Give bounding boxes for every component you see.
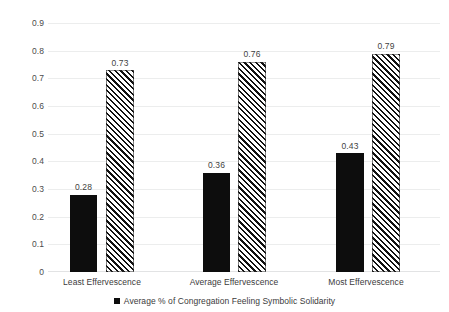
bar-series2-average[interactable] — [238, 62, 266, 272]
bar-chart: 0.9 0.8 0.7 0.6 0.5 0.4 0.3 0.2 0.1 0 0.… — [0, 0, 449, 312]
y-axis-tick: 0.6 — [4, 102, 44, 111]
x-axis-tick-most: Most Effervescence — [306, 277, 426, 287]
x-axis-tick-average: Average Effervescence — [174, 277, 294, 287]
x-axis: Least Effervescence Average Effervescenc… — [48, 277, 440, 293]
legend-item-label: Average % of Congregation Feeling Symbol… — [124, 297, 335, 306]
bar-label-series1-average: 0.36 — [195, 161, 238, 170]
bar-series2-least[interactable] — [106, 70, 134, 272]
bar-label-series1-most: 0.43 — [328, 142, 372, 151]
x-axis-tick-least: Least Effervescence — [42, 277, 162, 287]
gridline — [48, 23, 440, 24]
legend: Average % of Congregation Feeling Symbol… — [0, 297, 449, 306]
bar-series1-least[interactable] — [70, 195, 97, 272]
bar-series1-most[interactable] — [336, 153, 364, 272]
bar-label-series1-least: 0.28 — [62, 183, 105, 192]
bar-label-series2-least: 0.73 — [98, 59, 142, 68]
y-axis-tick: 0.7 — [4, 74, 44, 83]
y-axis-tick: 0.9 — [4, 19, 44, 28]
y-axis-tick: 0.5 — [4, 129, 44, 138]
bar-series1-average[interactable] — [203, 173, 230, 273]
bar-series2-most[interactable] — [372, 54, 400, 272]
bar-label-series2-most: 0.79 — [364, 42, 408, 51]
legend-swatch-icon — [114, 298, 120, 304]
bar-label-series2-average: 0.76 — [230, 50, 274, 59]
y-axis: 0.9 0.8 0.7 0.6 0.5 0.4 0.3 0.2 0.1 0 — [0, 23, 44, 272]
clipped-title-remnant — [0, 0, 449, 4]
y-axis-tick: 0.2 — [4, 212, 44, 221]
y-axis-tick: 0 — [4, 268, 44, 277]
y-axis-tick: 0.3 — [4, 185, 44, 194]
y-axis-tick: 0.8 — [4, 46, 44, 55]
y-axis-tick: 0.1 — [4, 240, 44, 249]
plot-area: 0.28 0.73 0.36 0.76 0.43 0.79 — [48, 23, 440, 272]
y-axis-tick: 0.4 — [4, 157, 44, 166]
